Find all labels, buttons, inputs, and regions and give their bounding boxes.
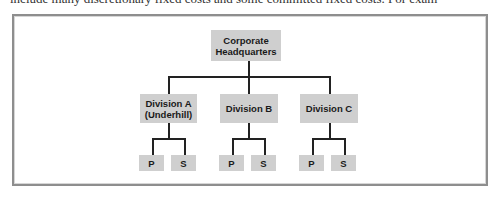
node-division-a: Division A (Underhill)	[140, 94, 197, 123]
node-label: S	[260, 158, 266, 169]
node-label-line2: Headquarters	[215, 46, 276, 57]
node-label-line1: Division C	[306, 103, 352, 114]
node-label: S	[180, 158, 186, 169]
connector-b-to-s	[264, 138, 266, 155]
node-label: S	[340, 158, 346, 169]
body-text-fragment: include many discretionary fixed costs a…	[10, 0, 498, 7]
connector-c-down	[329, 123, 331, 139]
node-division-b: Division B	[220, 94, 278, 123]
connector-to-division-c	[329, 76, 331, 94]
connector-a-to-s	[184, 138, 186, 155]
connector-b-bar	[232, 138, 266, 140]
connector-c-to-p	[312, 138, 314, 155]
node-division-b-p: P	[219, 155, 244, 171]
node-corporate-headquarters: Corporate Headquarters	[211, 30, 281, 61]
connector-c-bar	[312, 138, 346, 140]
connector-b-down	[248, 123, 250, 139]
connector-a-to-p	[152, 138, 154, 155]
node-label-line1: Division A	[145, 98, 191, 109]
connector-c-to-s	[344, 138, 346, 155]
node-label-line1: Corporate	[223, 35, 268, 46]
connector-a-bar	[152, 138, 186, 140]
connector-a-down	[168, 123, 170, 139]
node-label-line2: (Underhill)	[145, 109, 193, 120]
node-division-a-p: P	[139, 155, 164, 171]
node-division-a-s: S	[171, 155, 196, 171]
node-label: P	[308, 158, 314, 169]
node-label: P	[228, 158, 234, 169]
node-division-b-s: S	[251, 155, 276, 171]
node-label-line1: Division B	[226, 103, 272, 114]
connector-b-to-p	[232, 138, 234, 155]
node-label: P	[148, 158, 154, 169]
connector-to-division-b	[248, 76, 250, 94]
connector-to-division-a	[168, 76, 170, 94]
node-division-c: Division C	[300, 94, 358, 123]
node-division-c-s: S	[331, 155, 356, 171]
node-division-c-p: P	[299, 155, 324, 171]
